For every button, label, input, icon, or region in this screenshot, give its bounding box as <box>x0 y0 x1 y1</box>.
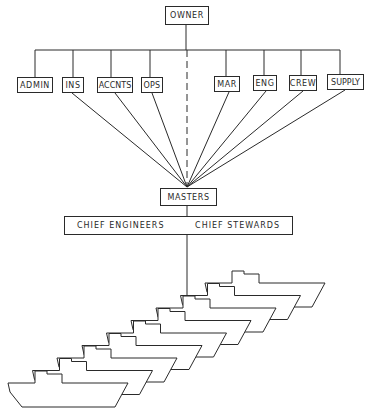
owner-box: OWNER <box>165 6 209 25</box>
crew-to-masters-line <box>187 91 303 187</box>
fleet-of-ships <box>8 271 325 407</box>
connector-lines <box>0 0 372 418</box>
department-accnts: ACCNTS <box>97 77 133 93</box>
department-supply: SUPPLY <box>327 74 364 90</box>
department-crew: CREW <box>289 75 317 91</box>
department-mar: MAR <box>214 76 240 92</box>
ship-officers-box: CHIEF ENGINEERS CHIEF STEWARDS <box>64 216 293 235</box>
accnts-to-masters-line <box>115 93 187 187</box>
masters-box: MASTERS <box>160 188 217 206</box>
department-ops: OPS <box>141 77 163 93</box>
supply-to-masters-line <box>187 90 345 187</box>
chief-stewards-label: CHIEF STEWARDS <box>195 221 280 230</box>
department-ins: INS <box>62 77 84 93</box>
eng-to-masters-line <box>187 91 266 187</box>
department-admin: ADMIN <box>17 77 53 93</box>
chief-engineers-label: CHIEF ENGINEERS <box>77 221 165 230</box>
fleet-organization-chart: OWNER ADMIN INS ACCNTS OPS MAR ENG CREW … <box>0 0 372 418</box>
department-eng: ENG <box>253 75 277 91</box>
mar-to-masters-line <box>187 92 229 187</box>
